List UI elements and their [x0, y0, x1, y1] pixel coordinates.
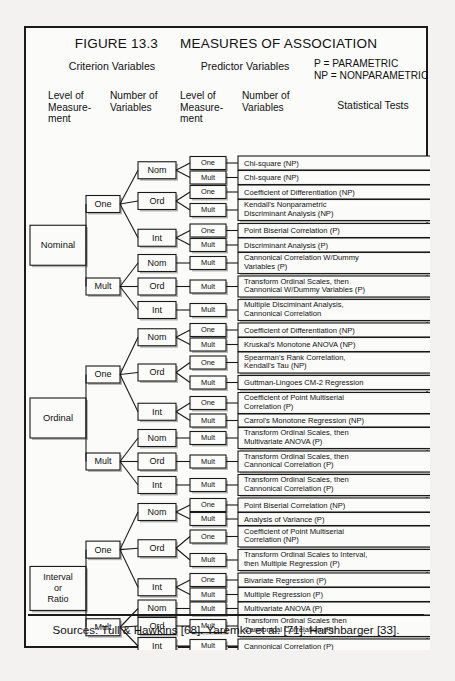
criterion-number-box[interactable]: Mult [86, 453, 122, 472]
predictor-number-box[interactable]: One [190, 224, 228, 239]
statistical-test-box[interactable]: Kendall's NonparametricDiscriminant Anal… [238, 200, 430, 223]
criterion-level-label: Ordinal [43, 412, 73, 423]
predictor-level-box[interactable]: Ord [138, 364, 178, 383]
predictor-number-box[interactable]: Mult [190, 513, 228, 528]
predictor-level-box[interactable]: Ord [138, 278, 178, 297]
criterion-level-box[interactable]: Ordinal [30, 398, 88, 440]
predictor-level-box[interactable]: Nom [138, 162, 178, 181]
predictor-level-box[interactable]: Ord [138, 453, 178, 472]
statistical-test-box[interactable]: Spearman's Rank Correlation,Kendall's Ta… [238, 352, 430, 375]
statistical-test-box[interactable]: Point Biserial Correlation (NP) [238, 498, 430, 514]
predictor-level-box[interactable]: Ord [138, 540, 178, 559]
statistical-test-box[interactable]: Discriminant Analysis (P) [238, 238, 430, 254]
predictor-number-box[interactable]: One [190, 397, 228, 412]
criterion-level-label: Ratio [47, 594, 68, 604]
statistical-test-label: Multiple Regression (P) [244, 590, 323, 599]
predictor-number-box[interactable]: One [190, 186, 228, 201]
criterion-number-label: Mult [94, 281, 112, 291]
predictor-number-box[interactable]: Mult [190, 204, 228, 219]
predictor-level-box[interactable]: Nom [138, 600, 178, 619]
statistical-test-box[interactable]: Multiple Disciminant Analysis,Cannonical… [238, 300, 430, 323]
predictor-number-box[interactable]: Mult [190, 414, 228, 429]
criterion-number-box[interactable]: One [86, 196, 122, 215]
predictor-number-box[interactable]: Mult [190, 376, 228, 391]
predictor-number-box[interactable]: One [190, 157, 228, 172]
statistical-test-box[interactable]: Chi-square (NP) [238, 156, 430, 172]
predictor-number-box[interactable]: Mult [190, 304, 228, 319]
predictor-number-label: One [201, 398, 215, 407]
predictor-number-label: Mult [201, 433, 215, 442]
predictor-number-box[interactable]: Mult [190, 455, 228, 470]
connector-criterion-number-to-predictor-level [120, 462, 138, 486]
statistical-test-box[interactable]: Transform Ordinal Scales, thenCannonical… [238, 276, 430, 299]
statistical-test-box[interactable]: Transform Ordinal Scales, thenCannonical… [238, 451, 430, 474]
predictor-number-box[interactable]: One [190, 530, 228, 545]
predictor-level-box[interactable]: Int [138, 229, 178, 248]
criterion-number-box[interactable]: One [86, 541, 122, 560]
criterion-level-box[interactable]: IntervalorRatio [30, 566, 88, 612]
predictor-number-box[interactable]: One [190, 324, 228, 339]
predictor-level-box[interactable]: Int [138, 302, 178, 321]
predictor-level-box[interactable]: Nom [138, 255, 178, 274]
predictor-level-box[interactable]: Nom [138, 504, 178, 523]
predictor-number-box[interactable]: Mult [190, 280, 228, 295]
connector-predictor-level-to-number [176, 330, 190, 337]
statistical-test-box[interactable]: Coefficient of Point MultiserialCorrelat… [238, 526, 430, 549]
statistical-test-box[interactable]: Coefficient of Point MultiserialCorrelat… [238, 393, 430, 416]
statistical-test-box[interactable]: Point Biserial Correlation (P) [238, 224, 430, 240]
statistical-test-box[interactable]: Analysis of Variance (P) [238, 513, 430, 528]
predictor-level-label: Nom [147, 507, 166, 517]
connector-predictor-level-to-number [176, 170, 190, 177]
criterion-level-box[interactable]: Nominal [30, 225, 88, 267]
predictor-level-box[interactable]: Int [138, 579, 178, 598]
criterion-number-box[interactable]: One [86, 366, 122, 385]
statistical-test-box[interactable]: Transform Ordinal Scales to Interval,the… [238, 550, 430, 573]
statistical-test-box[interactable]: Multiple Regression (P) [238, 588, 430, 604]
criterion-number-box[interactable]: Mult [86, 278, 122, 297]
predictor-number-box[interactable]: Mult [190, 640, 228, 651]
criterion-level-label: Nominal [41, 239, 75, 250]
criterion-number-label: One [94, 369, 111, 379]
predictor-number-box[interactable]: Mult [190, 171, 228, 186]
statistical-test-label: Cannonical W/Dummy Variables (P) [244, 285, 365, 294]
statistical-test-box[interactable]: Bivariate Regression (P) [238, 573, 430, 589]
predictor-number-box[interactable]: Mult [190, 239, 228, 254]
statistical-test-box[interactable]: Chi-square (NP) [238, 171, 430, 187]
statistical-test-box[interactable]: Transform Ordinal Scales, thenCannonical… [238, 475, 430, 498]
statistical-test-box[interactable]: Coefficient of Differentiation (NP) [238, 323, 430, 339]
criterion-level-label: or [54, 583, 62, 593]
predictor-level-label: Nom [147, 433, 166, 443]
predictor-number-box[interactable]: Mult [190, 338, 228, 353]
predictor-number-box[interactable]: Mult [190, 432, 228, 447]
predictor-number-box[interactable]: Mult [190, 554, 228, 569]
predictor-level-box[interactable]: Int [138, 638, 178, 651]
predictor-number-label: Mult [201, 555, 215, 564]
predictor-number-box[interactable]: Mult [190, 479, 228, 494]
predictor-level-box[interactable]: Nom [138, 329, 178, 348]
predictor-level-box[interactable]: Int [138, 477, 178, 496]
predictor-level-box[interactable]: Int [138, 403, 178, 422]
connector-predictor-level-to-number [176, 337, 190, 344]
predictor-level-label: Nom [147, 165, 166, 175]
predictor-number-box[interactable]: Mult [190, 257, 228, 272]
predictor-number-box[interactable]: Mult [190, 588, 228, 603]
statistical-test-label: Carrol's Monotone Regression (NP) [244, 416, 365, 425]
statistical-test-label: Kendall's Tau (NP) [244, 361, 307, 370]
sources-line: Sources: Tull & Hawkins [68]. Yaremko et… [26, 623, 426, 636]
statistical-test-box[interactable]: Transform Ordinal Scales, thenMultivaria… [238, 428, 430, 451]
predictor-number-box[interactable]: One [190, 574, 228, 589]
statistical-test-box[interactable]: Kruskal's Monotone ANOVA (NP) [238, 338, 430, 354]
statistical-test-label: Cannonical Correlation (P) [244, 484, 334, 493]
predictor-number-box[interactable]: One [190, 499, 228, 514]
statistical-test-box[interactable]: Carrol's Monotone Regression (NP) [238, 414, 430, 429]
predictor-number-box[interactable]: One [190, 356, 228, 371]
statistical-test-box[interactable]: Coefficient of Differentiation (NP) [238, 185, 430, 201]
predictor-level-box[interactable]: Ord [138, 193, 178, 212]
predictor-number-label: Mult [201, 416, 215, 425]
predictor-level-box[interactable]: Nom [138, 430, 178, 449]
predictor-number-label: One [201, 532, 215, 541]
statistical-test-box[interactable]: Guttman-Lingoes CM-2 Regression [238, 376, 430, 392]
statistical-test-box[interactable]: Cannonical Correlation W/DummyVariables … [238, 253, 430, 276]
connector-predictor-level-to-number [176, 363, 190, 373]
statistical-test-box[interactable]: Cannonical Correlation (P) [238, 639, 430, 650]
